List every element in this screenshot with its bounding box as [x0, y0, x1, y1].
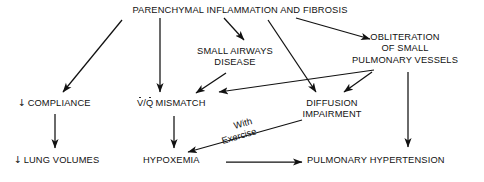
- node-label-line-1: OBLITERATION: [330, 32, 480, 43]
- down-arrow-icon: ↓: [18, 98, 26, 108]
- node-label-q: Q: [146, 98, 153, 109]
- node-label: HYPOXEMIA: [143, 155, 200, 165]
- node-decreased-compliance: ↓COMPLIANCE: [18, 98, 91, 109]
- down-arrow-icon: ↓: [14, 155, 22, 165]
- node-label-line-1: DIFFUSION: [286, 98, 378, 109]
- edge-obliteration-to-diffusion-impairment: [344, 72, 372, 92]
- node-label-mismatch: MISMATCH: [153, 98, 205, 108]
- node-label: LUNG VOLUMES: [24, 155, 100, 165]
- edge-parenchymal-to-compliance: [63, 20, 122, 92]
- node-label-v: V: [137, 98, 143, 109]
- node-label: COMPLIANCE: [28, 98, 91, 108]
- edge-parenchymal-to-small-airways-disease: [224, 18, 244, 40]
- node-label-line-3: PULMONARY VESSELS: [330, 55, 480, 66]
- node-parenchymal-inflammation-and-fibrosis: PARENCHYMAL INFLAMMATION AND FIBROSIS: [90, 5, 390, 16]
- node-small-airways-disease: SMALL AIRWAYS DISEASE: [182, 46, 288, 69]
- node-label-line-1: SMALL AIRWAYS: [182, 46, 288, 57]
- node-label-line-2: IMPAIRMENT: [286, 109, 378, 120]
- node-label-line-2: DISEASE: [182, 57, 288, 68]
- node-hypoxemia: HYPOXEMIA: [143, 155, 200, 166]
- edge-obliteration-to-vq-mismatch: [219, 70, 374, 92]
- node-vq-mismatch: V/QMISMATCH: [137, 98, 206, 109]
- node-label-line-2: OF SMALL: [330, 43, 480, 54]
- node-label: PULMONARY HYPERTENSION: [307, 155, 445, 165]
- node-pulmonary-hypertension: PULMONARY HYPERTENSION: [307, 155, 445, 166]
- node-obliteration-of-small-pulmonary-vessels: OBLITERATION OF SMALL PULMONARY VESSELS: [330, 32, 480, 66]
- node-decreased-lung-volumes: ↓LUNG VOLUMES: [14, 155, 99, 166]
- edge-small-airways-disease-to-vq-mismatch: [196, 73, 226, 93]
- node-label: PARENCHYMAL INFLAMMATION AND FIBROSIS: [132, 5, 347, 15]
- diagram-canvas: PARENCHYMAL INFLAMMATION AND FIBROSIS SM…: [0, 0, 484, 182]
- node-diffusion-impairment: DIFFUSION IMPAIRMENT: [286, 98, 378, 121]
